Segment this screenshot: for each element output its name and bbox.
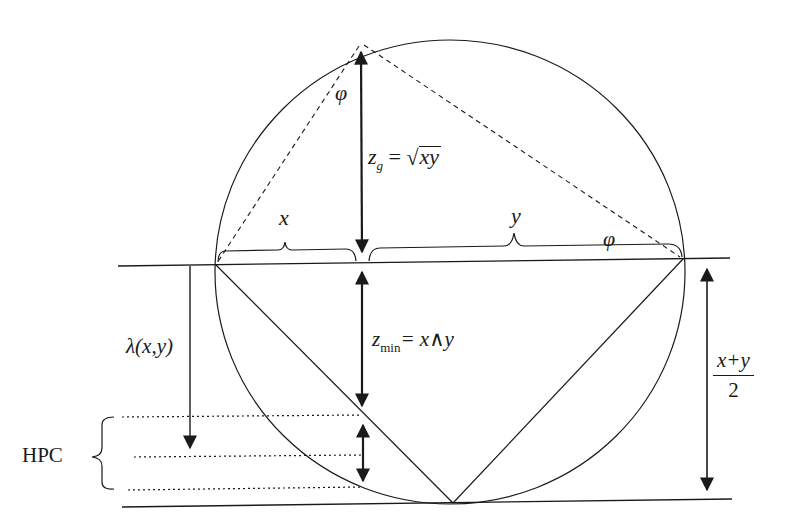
brace-y	[369, 233, 682, 261]
fraction-denominator: 2	[728, 376, 739, 403]
diagram-canvas	[0, 0, 788, 527]
v-left	[216, 265, 453, 503]
lambda-label: λ(x,y)	[126, 334, 173, 359]
zg-var: z	[368, 144, 377, 169]
zg-arrow	[361, 52, 362, 252]
hpc-dotted-upper	[122, 415, 362, 417]
circle	[215, 40, 685, 504]
mean-fraction-label: x+y 2	[713, 348, 754, 403]
zmin-rhs: = x∧y	[400, 327, 453, 351]
geometric-mean-diagram: φ φ zg = √xy x y zmin= x∧y λ(x,y) x+y 2 …	[0, 0, 788, 527]
brace-x	[218, 242, 356, 262]
hpc-dotted-lower	[128, 487, 362, 490]
baseline	[122, 499, 732, 507]
zmin-label: zmin= x∧y	[372, 327, 454, 352]
brace-hpc	[92, 417, 114, 489]
zg-eq: =	[383, 144, 406, 169]
v-right	[453, 259, 683, 503]
zg-radicand: xy	[419, 146, 442, 167]
phi-top-label: φ	[335, 80, 347, 106]
sqrt-icon: √	[406, 145, 418, 170]
hpc-dotted-middle	[134, 455, 362, 457]
hpc-label: HPC	[22, 443, 63, 468]
zg-sub: g	[377, 158, 384, 173]
y-brace-label: y	[511, 203, 521, 229]
zmin-var: z	[372, 327, 380, 351]
zg-label: zg = √xy	[368, 144, 441, 170]
phi-right-label: φ	[603, 226, 615, 252]
mean-fraction: x+y 2	[713, 348, 754, 403]
fraction-numerator: x+y	[713, 348, 754, 376]
zmin-sub: min	[380, 340, 400, 355]
x-brace-label: x	[279, 205, 289, 231]
chord-line	[118, 258, 730, 266]
